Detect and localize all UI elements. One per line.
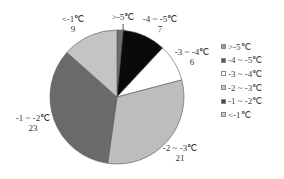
legend-swatch: [221, 112, 226, 117]
label-value: 21: [160, 153, 200, 163]
label-name: <-1℃: [58, 14, 88, 24]
label-name: -3 ~ -4℃: [172, 47, 212, 57]
legend-swatch: [221, 58, 226, 63]
label-value: 9: [58, 24, 88, 34]
legend-label: <-1℃: [228, 110, 251, 120]
label-name: -1 ~ -2℃: [13, 113, 53, 123]
label-1-2: -1 ~ -2℃ 23: [13, 113, 53, 133]
legend-item: -1 ~ -2℃: [221, 94, 262, 108]
legend-swatch: [221, 71, 226, 76]
legend-label: >-5℃: [228, 42, 251, 52]
label-3-4: -3 ~ -4℃ 6: [172, 47, 212, 67]
legend-swatch: [221, 44, 226, 49]
label-value: 7: [140, 24, 180, 34]
label-4-5: -4 ~ -5℃ 7: [140, 14, 180, 34]
label-value: 1: [108, 22, 138, 32]
label-2-3: -2 ~ -3℃ 21: [160, 143, 200, 163]
legend-item: <-1℃: [221, 108, 262, 122]
label-lt-1: <-1℃ 9: [58, 14, 88, 34]
legend: >-5℃ -4 ~ -5℃ -3 ~ -4℃ -2 ~ -3℃ -1 ~ -2℃…: [221, 40, 262, 122]
legend-label: -1 ~ -2℃: [228, 96, 262, 106]
legend-item: >-5℃: [221, 40, 262, 54]
label-name: -4 ~ -5℃: [140, 14, 180, 24]
legend-label: -4 ~ -5℃: [228, 55, 262, 65]
label-gt-5: >-5℃ 1: [108, 12, 138, 32]
legend-item: -2 ~ -3℃: [221, 81, 262, 95]
legend-label: -3 ~ -4℃: [228, 69, 262, 79]
label-value: 6: [172, 57, 212, 67]
legend-swatch: [221, 85, 226, 90]
legend-swatch: [221, 99, 226, 104]
legend-item: -3 ~ -4℃: [221, 67, 262, 81]
label-name: >-5℃: [108, 12, 138, 22]
label-value: 23: [13, 123, 53, 133]
legend-label: -2 ~ -3℃: [228, 83, 262, 93]
label-name: -2 ~ -3℃: [160, 143, 200, 153]
legend-item: -4 ~ -5℃: [221, 54, 262, 68]
